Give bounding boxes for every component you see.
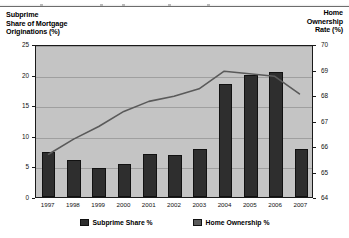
right-tick-68: 68 [316,93,345,99]
x-tick-2005: 2005 [237,201,262,208]
chart-figure: Subprime Share of Mortgage Originations … [0,0,349,238]
x-tick-2000: 2000 [111,201,136,208]
left-tick-10: 10 [5,134,33,140]
left-tick-15: 15 [5,103,33,109]
x-tick-2003: 2003 [187,201,212,208]
right-tickmark [313,71,316,72]
left-tickmark [32,198,35,199]
x-tick-2004: 2004 [212,201,237,208]
x-tick-2007: 2007 [288,201,313,208]
chart-legend: Subprime Share % Home Ownership % [0,219,349,226]
x-tick-2006: 2006 [262,201,287,208]
left-tick-5: 5 [5,164,33,170]
right-tickmark [313,45,316,46]
left-tick-25: 25 [5,42,33,48]
left-axis-title-line-3: Originations (%) [6,28,116,37]
right-tickmark [313,96,316,97]
legend-item-home-ownership: Home Ownership % [193,219,270,226]
left-tick-0: 0 [5,195,33,201]
legend-line-swatch-icon [193,219,202,226]
legend-label-subprime-share: Subprime Share % [93,219,153,226]
right-tick-69: 69 [316,68,345,74]
right-axis-title-line-3: Rate (%) [259,26,343,35]
x-tick-2002: 2002 [161,201,186,208]
right-tick-70: 70 [316,42,345,48]
legend-item-subprime-share: Subprime Share % [80,219,153,226]
right-tickmark [313,173,316,174]
right-tickmark [313,198,316,199]
right-axis-title: Home Ownership Rate (%) [259,9,343,35]
right-tick-65: 65 [316,170,345,176]
x-tick-2001: 2001 [136,201,161,208]
x-tick-1997: 1997 [35,201,60,208]
x-tick-1998: 1998 [60,201,85,208]
legend-label-home-ownership: Home Ownership % [206,219,270,226]
legend-bar-swatch-icon [80,219,89,226]
right-tick-64: 64 [316,195,345,201]
right-tickmark [313,147,316,148]
right-tick-67: 67 [316,119,345,125]
right-tick-66: 66 [316,144,345,150]
line-series-home-ownership [36,46,312,197]
top-divider-rule [0,6,349,7]
x-tick-1999: 1999 [86,201,111,208]
left-axis-title: Subprime Share of Mortgage Originations … [6,11,116,37]
left-tick-20: 20 [5,73,33,79]
right-tickmark [313,122,316,123]
plot-area [35,45,313,198]
